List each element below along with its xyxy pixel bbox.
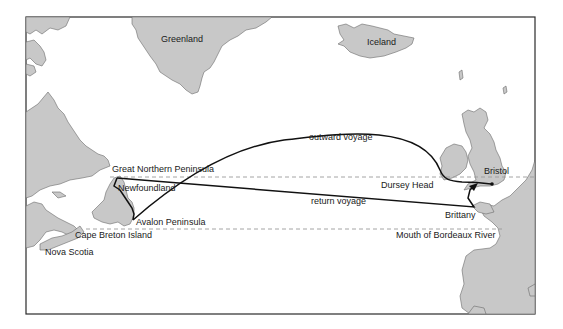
label-cape-breton-island: Cape Breton Island: [75, 231, 152, 240]
label-iceland: Iceland: [367, 38, 396, 47]
label-brittany: Brittany: [445, 211, 476, 220]
label-dursey-head: Dursey Head: [381, 181, 434, 190]
label-mouth-of-bordeaux-river: Mouth of Bordeaux River: [396, 231, 496, 240]
label-nova-scotia: Nova Scotia: [45, 248, 94, 257]
label-newfoundland: Newfoundland: [118, 184, 176, 193]
map-canvas: [0, 0, 563, 329]
label-great-northern-peninsula: Great Northern Peninsula: [112, 165, 214, 174]
label-return-voyage: return voyage: [311, 197, 366, 206]
label-bristol: Bristol: [484, 167, 509, 176]
faroe-islands: [459, 70, 463, 80]
label-avalon-peninsula: Avalon Peninsula: [136, 218, 205, 227]
voyage-map: Greenland Iceland outward voyage Great N…: [0, 0, 563, 329]
label-outward-voyage: outward voyage: [309, 133, 373, 142]
bristol-marker: [490, 182, 494, 186]
label-greenland: Greenland: [161, 35, 203, 44]
